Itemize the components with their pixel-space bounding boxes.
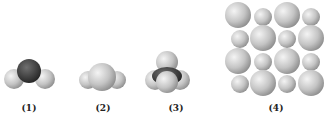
model-3-tetrahedral-molecule: [145, 51, 190, 93]
model-2-trigonal-molecule: [79, 63, 126, 91]
label-model-2: (2): [96, 103, 111, 113]
model-1-bent-molecule: [4, 59, 55, 89]
label-model-1: (1): [22, 103, 37, 113]
label-model-4: (4): [269, 103, 284, 113]
model-4-ionic-lattice: [225, 2, 324, 96]
label-model-3: (3): [169, 103, 184, 113]
